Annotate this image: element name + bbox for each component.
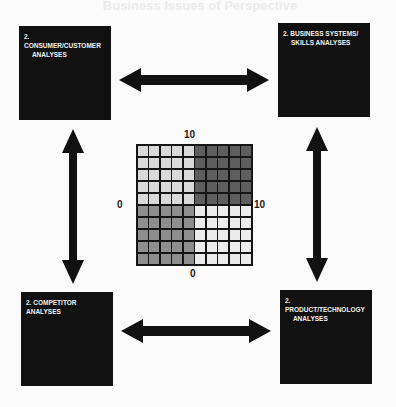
matrix-cell-top-right bbox=[207, 170, 217, 180]
matrix-cell-bottom-right bbox=[207, 230, 217, 240]
matrix-cell-top-left bbox=[161, 194, 171, 204]
box-number: 2. bbox=[24, 32, 29, 41]
matrix-cell-top-left bbox=[149, 182, 159, 192]
axis-label-bottom: 0 bbox=[190, 269, 196, 279]
axis-label-top: 10 bbox=[184, 130, 195, 140]
matrix-cell-top-left bbox=[184, 146, 194, 156]
box-line2: ANALYSES bbox=[285, 314, 364, 323]
matrix-cell-bottom-left bbox=[172, 254, 182, 264]
matrix-cell-top-right bbox=[207, 146, 217, 156]
matrix-cell-top-left bbox=[138, 170, 148, 180]
matrix-grid bbox=[136, 144, 253, 266]
matrix-cell-bottom-right bbox=[195, 206, 205, 216]
matrix-cell-bottom-left bbox=[149, 242, 159, 252]
matrix-cell-top-left bbox=[161, 158, 171, 168]
matrix-cell-bottom-right bbox=[218, 242, 228, 252]
matrix-cell-bottom-left bbox=[184, 254, 194, 264]
box-label: 2. COMPETITOR ANALYSES bbox=[26, 298, 105, 316]
matrix-cell-top-right bbox=[241, 182, 251, 192]
matrix-cell-bottom-left bbox=[161, 242, 171, 252]
matrix-cell-bottom-left bbox=[184, 230, 194, 240]
matrix-cell-bottom-left bbox=[149, 206, 159, 216]
matrix-cell-top-right bbox=[218, 146, 228, 156]
matrix-cell-bottom-right bbox=[195, 230, 205, 240]
matrix-cell-bottom-left bbox=[138, 206, 148, 216]
matrix-cell-bottom-left bbox=[161, 230, 171, 240]
matrix-cell-top-left bbox=[172, 170, 182, 180]
matrix-cell-top-left bbox=[138, 182, 148, 192]
matrix-cell-bottom-left bbox=[138, 242, 148, 252]
axis-label-left: 0 bbox=[117, 200, 123, 210]
matrix-cell-bottom-left bbox=[184, 218, 194, 228]
matrix-cell-top-right bbox=[207, 158, 217, 168]
matrix-cell-bottom-right bbox=[207, 254, 217, 264]
matrix-cell-bottom-left bbox=[161, 218, 171, 228]
matrix-cell-bottom-left bbox=[149, 230, 159, 240]
matrix-cell-bottom-right bbox=[230, 242, 240, 252]
double-arrow-vertical-left-icon bbox=[62, 129, 84, 284]
box-label: 2. CONSUMER/CUSTOMER ANALYSES bbox=[24, 32, 103, 59]
matrix-cell-top-right bbox=[195, 194, 205, 204]
matrix-cell-top-left bbox=[149, 158, 159, 168]
matrix-cell-bottom-left bbox=[184, 242, 194, 252]
matrix-cell-bottom-right bbox=[241, 242, 251, 252]
box-number: 2. bbox=[26, 298, 31, 307]
matrix-cell-top-left bbox=[149, 170, 159, 180]
matrix-cell-top-left bbox=[138, 146, 148, 156]
matrix-cell-top-right bbox=[218, 182, 228, 192]
matrix-cell-bottom-right bbox=[218, 206, 228, 216]
quadrant-matrix bbox=[136, 144, 253, 266]
matrix-cell-top-left bbox=[172, 182, 182, 192]
matrix-cell-top-left bbox=[149, 146, 159, 156]
box-line1: BUSINESS SYSTEMS/ bbox=[290, 29, 358, 38]
matrix-cell-bottom-left bbox=[172, 206, 182, 216]
box-line1: COMPETITOR ANALYSES bbox=[26, 298, 76, 316]
matrix-cell-bottom-right bbox=[230, 218, 240, 228]
box-line1: PRODUCT/TECHNOLOGY bbox=[285, 305, 365, 314]
matrix-cell-top-right bbox=[230, 158, 240, 168]
matrix-cell-top-left bbox=[184, 170, 194, 180]
matrix-cell-top-left bbox=[161, 146, 171, 156]
matrix-cell-bottom-right bbox=[241, 254, 251, 264]
box-line2: SKILLS ANALYSES bbox=[283, 38, 362, 47]
matrix-cell-top-right bbox=[195, 146, 205, 156]
matrix-cell-bottom-right bbox=[207, 206, 217, 216]
matrix-cell-top-right bbox=[230, 194, 240, 204]
matrix-cell-top-left bbox=[138, 194, 148, 204]
matrix-cell-top-left bbox=[184, 182, 194, 192]
matrix-cell-top-right bbox=[230, 146, 240, 156]
matrix-cell-bottom-right bbox=[195, 242, 205, 252]
business-systems-skills-analyses-box: 2. BUSINESS SYSTEMS/ SKILLS ANALYSES bbox=[278, 23, 370, 117]
matrix-cell-bottom-right bbox=[195, 254, 205, 264]
matrix-cell-bottom-right bbox=[230, 230, 240, 240]
matrix-cell-top-left bbox=[138, 158, 148, 168]
matrix-cell-bottom-right bbox=[207, 218, 217, 228]
matrix-cell-top-left bbox=[172, 146, 182, 156]
box-number: 2. bbox=[285, 296, 290, 305]
matrix-cell-top-right bbox=[218, 194, 228, 204]
matrix-cell-bottom-right bbox=[230, 206, 240, 216]
matrix-cell-top-right bbox=[230, 182, 240, 192]
matrix-cell-top-left bbox=[172, 158, 182, 168]
matrix-cell-bottom-left bbox=[138, 230, 148, 240]
axis-label-right: 10 bbox=[254, 200, 265, 210]
matrix-cell-top-right bbox=[230, 170, 240, 180]
matrix-cell-top-right bbox=[207, 182, 217, 192]
competitor-analyses-box: 2. COMPETITOR ANALYSES bbox=[21, 292, 113, 386]
matrix-cell-top-right bbox=[195, 170, 205, 180]
matrix-cell-top-left bbox=[172, 194, 182, 204]
matrix-cell-bottom-left bbox=[149, 218, 159, 228]
matrix-cell-top-right bbox=[207, 194, 217, 204]
matrix-cell-top-left bbox=[161, 170, 171, 180]
product-technology-analyses-box: 2. PRODUCT/TECHNOLOGY ANALYSES bbox=[280, 290, 372, 384]
matrix-cell-bottom-right bbox=[218, 218, 228, 228]
consumer-customer-analyses-box: 2. CONSUMER/CUSTOMER ANALYSES bbox=[19, 26, 111, 120]
matrix-cell-top-right bbox=[195, 182, 205, 192]
bleed-through-title: Business Issues of Perspective bbox=[85, 0, 315, 12]
matrix-cell-top-left bbox=[149, 194, 159, 204]
matrix-cell-top-left bbox=[161, 182, 171, 192]
box-line2: ANALYSES bbox=[24, 50, 103, 59]
box-label: 2. BUSINESS SYSTEMS/ SKILLS ANALYSES bbox=[283, 29, 362, 47]
matrix-cell-bottom-left bbox=[161, 254, 171, 264]
matrix-cell-bottom-right bbox=[230, 254, 240, 264]
